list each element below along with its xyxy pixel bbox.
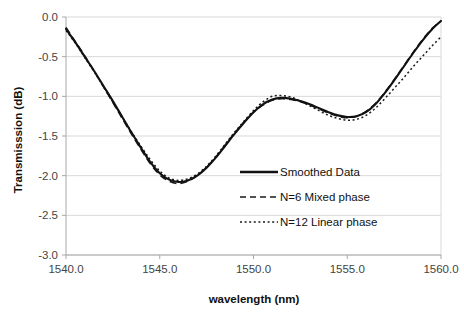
- grid-lines: [66, 17, 441, 255]
- data-series-lines: [66, 21, 441, 184]
- y-tick-label: -2.0: [38, 170, 58, 182]
- y-tick-label: 0.0: [42, 11, 58, 23]
- y-tick-label: -1.5: [38, 130, 58, 142]
- y-tick-label: -3.0: [38, 249, 58, 261]
- series-line-dotted: [66, 30, 441, 180]
- series-line-solid: [66, 21, 441, 182]
- transmission-spectrum-chart: 0.0-0.5-1.0-1.5-2.0-2.5-3.0 1540.01545.0…: [0, 0, 464, 316]
- x-tick-label: 1540.0: [48, 263, 83, 275]
- x-axis-tick-labels: 1540.01545.01550.01555.01560.0: [48, 255, 458, 275]
- legend-label: N=6 Mixed phase: [280, 191, 370, 203]
- chart-canvas: 0.0-0.5-1.0-1.5-2.0-2.5-3.0 1540.01545.0…: [0, 0, 464, 316]
- y-tick-label: -2.5: [38, 209, 58, 221]
- y-tick-label: -0.5: [38, 51, 58, 63]
- x-tick-label: 1545.0: [142, 263, 177, 275]
- x-tick-label: 1550.0: [236, 263, 271, 275]
- legend-label: N=12 Linear phase: [280, 216, 378, 228]
- x-axis-title: wavelength (nm): [208, 293, 300, 305]
- x-tick-label: 1560.0: [423, 263, 458, 275]
- y-axis-tick-labels: 0.0-0.5-1.0-1.5-2.0-2.5-3.0: [38, 11, 66, 261]
- x-tick-label: 1555.0: [330, 263, 365, 275]
- y-axis-title: Transmisssion (dB): [12, 86, 24, 193]
- legend-label: Smoothed Data: [280, 166, 361, 178]
- series-line-dashed: [66, 21, 441, 184]
- y-tick-label: -1.0: [38, 90, 58, 102]
